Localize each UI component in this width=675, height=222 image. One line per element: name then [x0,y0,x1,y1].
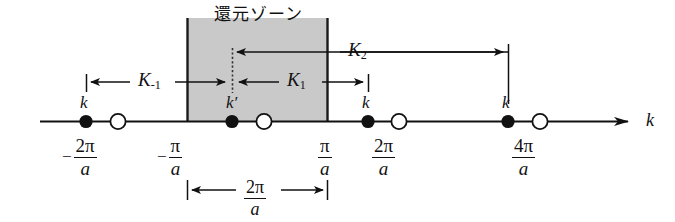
tick-label-pos-4pi-a: 4π a [512,136,535,179]
fraction: π a [318,136,332,179]
k-point-label: k [362,94,370,111]
reduced-zone-rect [187,18,328,121]
vector-K-2-label: K2 [348,40,367,59]
fraction-numerator: 2π [74,136,97,158]
vector-subscript: 2 [361,48,367,62]
k-axis-label: k [646,111,654,129]
fraction: 2π a [372,136,395,179]
figure-vector-layer [0,0,675,222]
fraction: 4π a [512,136,535,179]
vector-K-minus-1-label: K-1 [138,70,161,89]
k-prime-symbol: k [226,93,234,112]
vector-subscript: -1 [151,78,161,92]
open-point [532,114,547,129]
prime-mark: ′ [234,93,238,112]
tick-label-neg-pi-a: − π a [157,136,182,179]
k-point-label: k [80,94,88,111]
tick-value: − π a [157,136,182,179]
fraction-denominator: a [169,158,183,179]
minus-sign: − [157,148,167,166]
vector-subscript: 1 [300,78,306,92]
k-point-filled [225,115,238,128]
k-point-label: k [502,94,510,111]
open-point [110,114,125,129]
fraction-denominator: a [512,158,535,179]
fraction-denominator: a [372,158,395,179]
open-point [256,114,271,129]
fraction-numerator: 2π [244,178,266,199]
tick-label-neg-2pi-a: − 2π a [62,136,97,179]
fraction-denominator: a [318,158,332,179]
k-point-filled [501,115,514,128]
vector-K-1-label: K1 [287,70,306,89]
fraction: π a [169,136,183,179]
fraction-numerator: 4π [512,136,535,158]
k-prime-point-label: k′ [226,94,237,111]
k-point-filled [361,115,374,128]
fraction-numerator: π [318,136,332,158]
fraction: 2π a [244,178,266,218]
fraction-numerator: 2π [372,136,395,158]
open-point [391,114,406,129]
reduced-zone-title: 還元ゾーン [214,6,303,23]
tick-value: − 2π a [62,136,97,179]
vector-symbol: K [287,69,300,90]
tick-label-pos-pi-a: π a [318,136,332,179]
minus-sign: − [62,148,72,166]
fraction-denominator: a [74,158,97,179]
zone-width-label: 2π a [244,178,266,218]
reciprocal-space-figure: 還元ゾーン K-1 K1 K2 k k′ k k k − 2π a − π a … [0,0,675,222]
vector-symbol: K [348,39,361,60]
tick-label-pos-2pi-a: 2π a [372,136,395,179]
fraction: 2π a [74,136,97,179]
fraction-numerator: π [169,136,183,158]
k-point-filled [79,115,92,128]
fraction-denominator: a [244,199,266,219]
vector-symbol: K [138,69,151,90]
